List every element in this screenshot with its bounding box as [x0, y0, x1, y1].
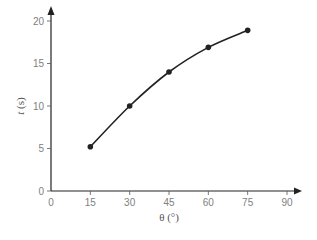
x-tick-label: 60 [203, 197, 215, 208]
ticks: 015304560759005101520 [33, 16, 293, 209]
y-tick-label: 10 [33, 101, 45, 112]
x-tick-label: 15 [85, 197, 97, 208]
y-axis-unit: (s) [14, 97, 27, 112]
x-axis-arrow-icon [294, 188, 302, 195]
data-point [206, 45, 212, 51]
y-tick-label: 0 [38, 186, 44, 197]
axes [48, 6, 303, 195]
y-tick-label: 20 [33, 16, 45, 27]
x-tick-label: 0 [48, 197, 54, 208]
series-line [90, 30, 247, 146]
y-axis-label: t (s) [14, 97, 27, 115]
data-point [127, 103, 133, 109]
x-tick-label: 30 [124, 197, 136, 208]
data-series [88, 28, 251, 150]
data-point [166, 69, 172, 75]
y-tick-label: 5 [38, 143, 44, 154]
data-point [245, 28, 251, 34]
x-tick-label: 45 [163, 197, 175, 208]
x-axis-label: θ (°) [159, 211, 179, 224]
data-point [88, 144, 94, 150]
y-tick-label: 15 [33, 58, 45, 69]
x-tick-label: 90 [281, 197, 293, 208]
x-tick-label: 75 [242, 197, 254, 208]
y-axis-arrow-icon [48, 6, 55, 15]
chart: 015304560759005101520 θ (°) t (s) [0, 0, 317, 240]
